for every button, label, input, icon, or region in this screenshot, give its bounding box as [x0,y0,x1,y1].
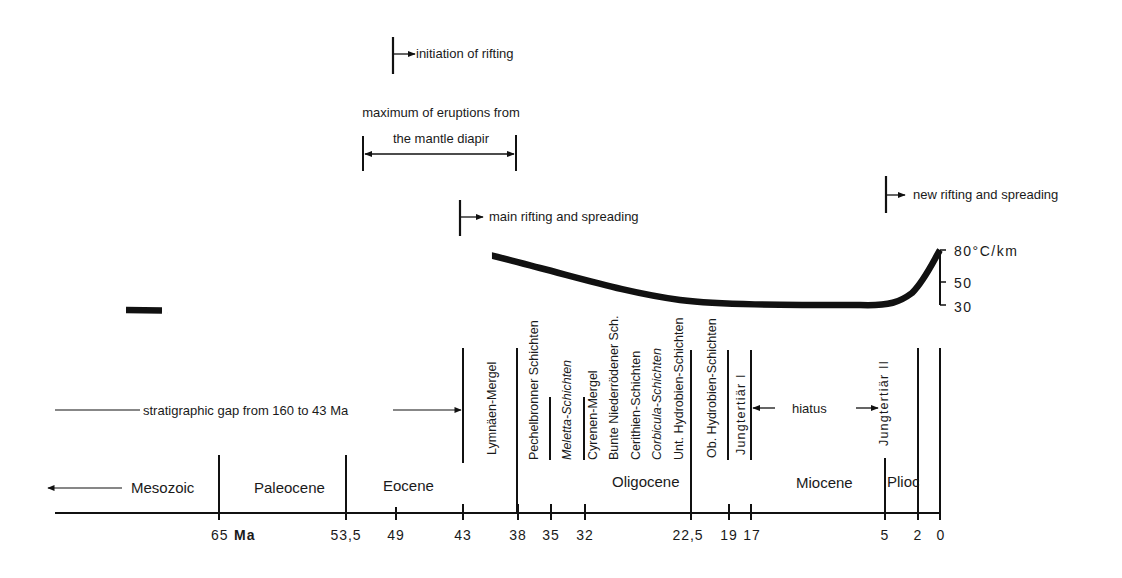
tick-label-22-5: 22,5 [672,527,703,543]
tick-label-38: 38 [509,527,527,543]
formation-labels: Lymnäen-Mergel Pechelbronner Schichten M… [485,315,891,460]
formation-lymnaen-mergel: Lymnäen-Mergel [485,362,499,455]
tick-label-17: 17 [743,527,761,543]
rift-evolution-diagram: initiation of rifting maximum of eruptio… [0,0,1122,578]
event-label-line1: maximum of eruptions from [362,105,520,120]
tick-label-65: 65 [211,527,229,543]
tick-label-19: 19 [720,527,738,543]
tick-label-32: 32 [576,527,594,543]
event-new-rifting: new rifting and spreading [886,176,1058,213]
formation-pechelbronner: Pechelbronner Schichten [527,320,541,460]
formation-unt-hydrobien: Unt. Hydrobien-Schichten [672,318,686,460]
epoch-miocene: Miocene [796,474,853,491]
gap-label: stratigraphic gap from 160 to 43 Ma [143,403,349,418]
scale-label-30: 30 [954,299,973,315]
tick-label-2: 2 [914,527,923,543]
epoch-mesozoic: Mesozoic [131,479,195,496]
axis-ticks [396,504,940,520]
formation-meletta: Meletta-Schichten [560,360,574,460]
formation-ob-hydrobien: Ob. Hydrobien-Schichten [705,318,719,458]
event-label: new rifting and spreading [913,187,1058,202]
event-label: main rifting and spreading [489,209,639,224]
event-label-line2: the mantle diapir [393,131,490,146]
event-maximum-eruptions: maximum of eruptions from the mantle dia… [362,105,520,171]
stratigraphic-gap: stratigraphic gap from 160 to 43 Ma [55,403,461,418]
tick-label-0: 0 [937,527,946,543]
event-label: initiation of rifting [416,46,514,61]
event-main-rifting: main rifting and spreading [460,200,639,236]
epoch-row: Mesozoic Paleocene Eocene Oligocene Mioc… [48,455,920,520]
tick-label-53-5: 53,5 [330,527,361,543]
gradient-dashed-segment [126,247,940,311]
epoch-eocene: Eocene [383,477,434,494]
scale-label-80: 80°C/km [954,243,1018,259]
formation-jungtertiar-1: Jungtertiär I [734,373,748,455]
tick-unit: Ma [234,527,255,543]
epoch-pliocene: Plioc [887,473,920,490]
gradient-solid-segment [126,247,940,311]
gradient-scale: 80°C/km 50 30 [940,243,1018,315]
formation-bunte-niederrodener: Bunte Niederrödener Sch. [607,315,621,460]
tick-label-49: 49 [387,527,405,543]
epoch-paleocene: Paleocene [254,479,325,496]
formation-corbicula: Corbicula-Schichten [650,348,664,460]
tick-label-35: 35 [542,527,560,543]
tick-label-5: 5 [881,527,890,543]
formation-cyrenen-mergel: Cyrenen-Mergel [586,370,600,460]
tick-label-43: 43 [454,527,472,543]
formation-jungtertiar-2: Jungtertiär II [877,360,891,446]
scale-label-50: 50 [954,275,973,291]
event-initiation-of-rifting: initiation of rifting [393,37,514,74]
formation-cerithien: Cerithien-Schichten [629,351,643,460]
hiatus-marker: hiatus [753,401,878,416]
time-axis: 65 Ma 53,5 49 43 38 35 32 22,5 19 17 5 2… [55,504,945,543]
hiatus-label: hiatus [792,401,827,416]
epoch-oligocene: Oligocene [612,473,680,490]
geothermal-gradient-curve [126,247,940,311]
